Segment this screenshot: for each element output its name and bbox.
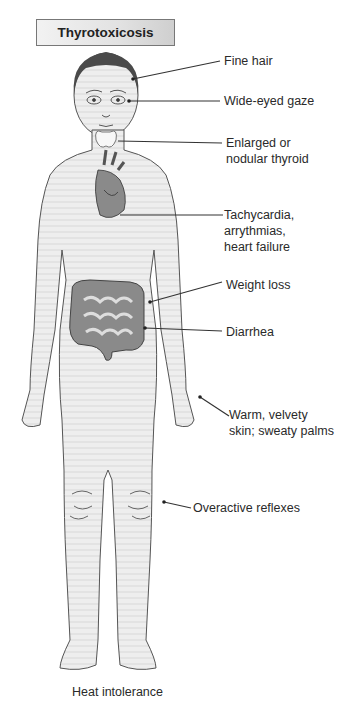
label-skin-line1: Warm, velvety [229,407,308,423]
leader-fine-hair [133,61,220,79]
label-heat-intolerance: Heat intolerance [72,684,163,700]
label-skin-line2: skin; sweaty palms [229,423,334,439]
label-reflexes: Overactive reflexes [193,500,300,516]
thyroid-gland [96,131,117,147]
label-diarrhea: Diarrhea [226,324,274,340]
label-fine-hair: Fine hair [224,53,273,69]
leader-diarrhea [145,328,222,331]
label-wide-eyed-gaze: Wide-eyed gaze [224,93,314,109]
leader-thyroid [118,141,222,143]
label-thyroid-line2: nodular thyroid [226,151,309,167]
leader-skin [200,397,229,416]
label-heart-line3: heart failure [224,239,290,255]
leader-reflexes [164,502,191,508]
label-weight-loss: Weight loss [226,277,290,293]
label-heart-line1: Tachycardia, [224,207,294,223]
label-heart-line2: arrythmias, [224,223,286,239]
label-thyroid-line1: Enlarged or [226,135,291,151]
